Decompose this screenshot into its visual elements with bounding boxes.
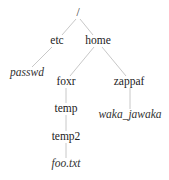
node-home: home: [85, 35, 111, 47]
edge-root-etc: [62, 19, 76, 35]
node-etc: etc: [50, 35, 63, 47]
node-passwd: passwd: [10, 67, 44, 79]
node-foo-txt: foo.txt: [51, 158, 80, 170]
edge-root-home: [80, 19, 93, 35]
node-foxr: foxr: [56, 76, 75, 88]
edge-home-zappaf: [102, 47, 126, 76]
edge-etc-passwd: [32, 47, 52, 67]
tree-edges: [0, 0, 169, 180]
node-waka-jawaka: waka_jawaka: [98, 109, 161, 121]
node-zappaf: zappaf: [114, 76, 145, 88]
edge-home-foxr: [70, 47, 94, 76]
node-temp: temp: [55, 103, 78, 115]
node-root: /: [76, 7, 79, 19]
directory-tree: / etc home passwd foxr zappaf temp waka_…: [0, 0, 169, 180]
node-temp2: temp2: [52, 131, 81, 143]
